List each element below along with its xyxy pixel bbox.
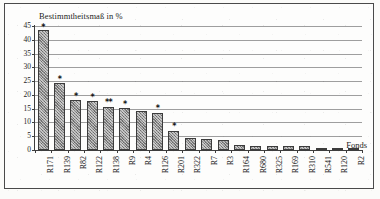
bar[interactable]	[348, 148, 359, 150]
y-tick-label: 35	[15, 50, 31, 58]
bar[interactable]	[332, 148, 343, 150]
bar-group[interactable]	[199, 26, 214, 150]
bar-group[interactable]	[346, 26, 361, 150]
bar[interactable]	[54, 83, 65, 151]
bar[interactable]	[316, 148, 327, 150]
bar-group[interactable]: *	[117, 26, 132, 150]
x-tick-label: R122	[96, 156, 104, 198]
y-tick-label: 15	[15, 105, 31, 113]
bar-group[interactable]: **	[101, 26, 116, 150]
x-tick-mark	[362, 150, 363, 153]
x-tick-label: R3	[227, 156, 235, 198]
x-tick-mark	[117, 150, 118, 153]
y-tick-label: 45	[15, 22, 31, 30]
x-tick-label: R9	[129, 156, 137, 198]
significance-marker: *	[150, 106, 165, 111]
bar[interactable]	[70, 100, 81, 150]
bar-group[interactable]	[134, 26, 149, 150]
significance-marker: *	[52, 77, 67, 82]
x-tick-label: R201	[178, 156, 186, 198]
y-tick-mark	[32, 136, 35, 137]
bar[interactable]	[267, 146, 278, 150]
bar[interactable]	[168, 131, 179, 150]
bar-group[interactable]	[281, 26, 296, 150]
x-tick-label: R164	[243, 156, 251, 198]
significance-marker: **	[101, 100, 116, 105]
x-tick-mark	[149, 150, 150, 153]
bar[interactable]	[218, 140, 229, 150]
x-tick-mark	[182, 150, 183, 153]
bar-group[interactable]: *	[36, 26, 51, 150]
x-tick-mark	[133, 150, 134, 153]
y-tick-label: 40	[15, 36, 31, 44]
y-tick-label: 20	[15, 91, 31, 99]
bar[interactable]	[299, 146, 310, 150]
x-tick-mark	[215, 150, 216, 153]
x-tick-mark	[313, 150, 314, 153]
y-tick-label: 30	[15, 63, 31, 71]
bar[interactable]	[119, 108, 130, 150]
x-tick-label: R7	[211, 156, 219, 198]
bar-group[interactable]: *	[150, 26, 165, 150]
x-tick-mark	[264, 150, 265, 153]
bar-group[interactable]	[232, 26, 247, 150]
x-tick-label: R171	[47, 156, 55, 198]
x-tick-label: R4	[145, 156, 153, 198]
y-tick-mark	[32, 40, 35, 41]
x-tick-mark	[329, 150, 330, 153]
x-tick-mark	[297, 150, 298, 153]
x-tick-label: R322	[194, 156, 202, 198]
x-tick-mark	[231, 150, 232, 153]
bar-group[interactable]: *	[68, 26, 83, 150]
significance-marker: *	[36, 25, 51, 30]
bar-group[interactable]: *	[166, 26, 181, 150]
y-tick-mark	[32, 54, 35, 55]
bar-group[interactable]	[297, 26, 312, 150]
bar-group[interactable]	[248, 26, 263, 150]
plot-area: 051015202530354045 *********	[35, 26, 362, 150]
x-tick-label: R126	[162, 156, 170, 198]
bar[interactable]	[38, 30, 49, 150]
bar[interactable]	[250, 146, 261, 150]
x-tick-mark	[248, 150, 249, 153]
y-tick-label: 0	[15, 146, 31, 154]
x-tick-label: R139	[64, 156, 72, 198]
chart-title: Bestimmtheitsmaß in %	[39, 11, 123, 21]
bar[interactable]	[136, 111, 147, 150]
significance-marker: *	[166, 124, 181, 129]
x-tick-mark	[199, 150, 200, 153]
x-tick-label: R541	[325, 156, 333, 198]
significance-marker: *	[117, 102, 132, 107]
y-tick-mark	[32, 109, 35, 110]
bar-group[interactable]	[330, 26, 345, 150]
bar-group[interactable]: *	[85, 26, 100, 150]
bar[interactable]	[185, 138, 196, 150]
y-tick-label: 5	[15, 132, 31, 140]
bar[interactable]	[103, 107, 114, 150]
x-tick-mark	[346, 150, 347, 153]
x-tick-mark	[68, 150, 69, 153]
y-tick-mark	[32, 81, 35, 82]
figure-container: Bestimmtheitsmaß in % Fonds 051015202530…	[0, 0, 380, 199]
bar[interactable]	[283, 146, 294, 150]
bar[interactable]	[201, 139, 212, 150]
bar[interactable]	[234, 145, 245, 151]
x-tick-mark	[51, 150, 52, 153]
bar[interactable]	[87, 101, 98, 150]
x-tick-label: R325	[276, 156, 284, 198]
x-tick-mark	[84, 150, 85, 153]
x-tick-mark	[280, 150, 281, 153]
bar-group[interactable]	[216, 26, 231, 150]
bar-group[interactable]	[314, 26, 329, 150]
x-tick-label: R169	[292, 156, 300, 198]
y-tick-mark	[32, 95, 35, 96]
x-tick-label: R120	[341, 156, 349, 198]
y-tick-mark	[32, 26, 35, 27]
x-tick-mark	[166, 150, 167, 153]
significance-marker: *	[68, 94, 83, 99]
bar-group[interactable]: *	[52, 26, 67, 150]
y-tick-mark	[32, 122, 35, 123]
bar-group[interactable]	[265, 26, 280, 150]
bar[interactable]	[152, 113, 163, 150]
bar-group[interactable]	[183, 26, 198, 150]
